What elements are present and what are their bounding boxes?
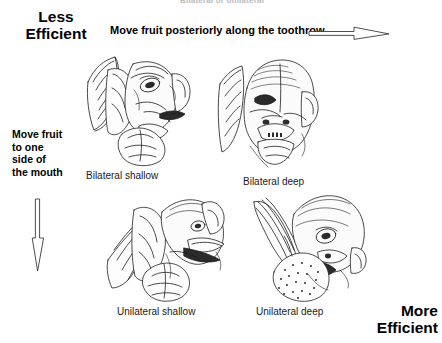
less-efficient-line-2: Efficient [8, 25, 104, 42]
horizontal-axis-label: Move fruit posteriorly along the toothro… [110, 24, 325, 36]
bat-head-frontal-icon [214, 54, 330, 174]
figure-canvas: Bilateral or unilateral Less Efficient M… [0, 0, 442, 343]
clipped-header-text: Bilateral or unilateral [152, 0, 292, 5]
bat-head-fruit-icon [248, 186, 370, 304]
caption-bilateral-shallow: Bilateral shallow [86, 170, 158, 181]
right-arrow-icon [308, 25, 390, 43]
down-arrow-icon [25, 198, 51, 272]
more-efficient-line-2: Efficient [336, 319, 438, 336]
more-efficient-line-1: More [336, 302, 438, 319]
more-efficient-label: More Efficient [336, 302, 438, 336]
caption-unilateral-deep: Unilateral deep [256, 306, 323, 317]
bat-head-profile-icon [104, 188, 232, 304]
less-efficient-line-1: Less [8, 8, 104, 25]
caption-bilateral-deep: Bilateral deep [243, 176, 304, 187]
bat-head-three-quarter-icon [84, 52, 198, 168]
caption-unilateral-shallow: Unilateral shallow [117, 306, 195, 317]
less-efficient-label: Less Efficient [8, 8, 104, 42]
